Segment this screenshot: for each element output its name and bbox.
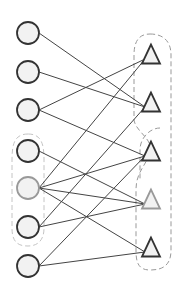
circle-node-c2 — [17, 61, 39, 83]
edge-c5-t1 — [39, 59, 145, 188]
edges — [39, 33, 145, 266]
bipartite-diagram — [0, 0, 186, 291]
edge-c1-t2 — [39, 33, 145, 107]
triangle-node-t3 — [142, 142, 160, 161]
circle-node-c4 — [17, 140, 39, 162]
right-nodes — [142, 45, 160, 257]
edge-c7-t5 — [39, 252, 145, 266]
edge-c2-t2 — [39, 72, 145, 107]
circle-node-c5 — [17, 177, 39, 199]
triangle-node-t5 — [142, 238, 160, 257]
triangle-node-t2 — [142, 93, 160, 112]
edge-c3-t1 — [39, 59, 145, 110]
circle-node-c7 — [17, 255, 39, 277]
circle-node-c1 — [17, 22, 39, 44]
circle-node-c6 — [17, 216, 39, 238]
edge-c6-t2 — [39, 107, 145, 227]
edge-c5-t5 — [39, 188, 145, 252]
left-nodes — [17, 22, 39, 277]
circle-node-c3 — [17, 99, 39, 121]
triangle-node-t4 — [142, 190, 160, 209]
edge-c3-t3 — [39, 110, 145, 156]
triangle-node-t1 — [142, 45, 160, 64]
edge-c6-t4 — [39, 204, 145, 227]
